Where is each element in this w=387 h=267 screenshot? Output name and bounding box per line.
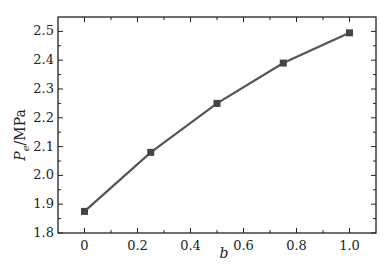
data-point-marker <box>147 149 154 156</box>
svg-text:Pe/MPa: Pe/MPa <box>12 109 31 162</box>
chart: 00.20.40.60.81.01.81.92.02.12.22.32.42.5… <box>0 0 387 267</box>
data-line <box>85 33 350 212</box>
y-tick-label: 1.9 <box>33 196 54 211</box>
x-tick-label: 0 <box>80 238 88 253</box>
x-tick-label: 0.8 <box>286 238 307 253</box>
y-axis-label: Pe/MPa <box>12 109 31 162</box>
x-tick-label: 0.6 <box>233 238 254 253</box>
plot-area: 00.20.40.60.81.01.81.92.02.12.22.32.42.5 <box>33 17 376 253</box>
y-tick-label: 2.3 <box>33 81 54 96</box>
x-tick-label: 0.2 <box>127 238 148 253</box>
y-tick-label: 2.1 <box>33 139 54 154</box>
data-point-marker <box>214 100 221 107</box>
y-tick-label: 2.5 <box>33 23 54 38</box>
data-point-marker <box>280 60 287 67</box>
y-tick-label: 1.8 <box>33 225 54 240</box>
y-tick-label: 2.2 <box>33 110 54 125</box>
y-tick-label: 2.0 <box>33 167 54 182</box>
plot-frame <box>58 17 376 233</box>
x-tick-label: 0.4 <box>180 238 201 253</box>
y-tick-label: 2.4 <box>33 52 54 67</box>
x-tick-label: 1.0 <box>339 238 360 253</box>
x-axis-label: b <box>220 245 229 261</box>
data-point-marker <box>346 29 353 36</box>
data-point-marker <box>81 208 88 215</box>
